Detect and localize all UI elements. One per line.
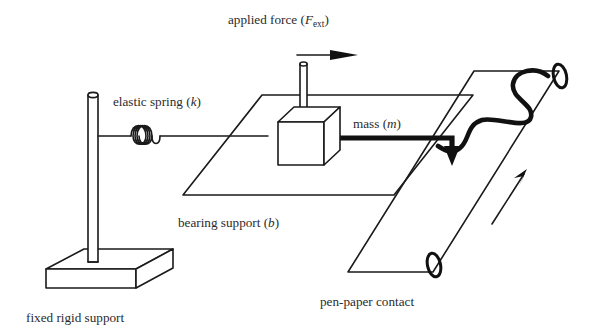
mechanical-system-diagram: applied force (Fext) elastic spring (k) … (0, 0, 595, 335)
elastic-spring-group (98, 126, 268, 145)
pen-tip-arrow (444, 146, 460, 166)
paper-feed-direction-arrow (492, 169, 527, 224)
bearing-support-label: bearing support (b) (178, 215, 279, 230)
mass-rod-top-cap (300, 62, 307, 66)
pen-paper-contact-label: pen-paper contact (320, 294, 414, 309)
paper-roller-top (551, 63, 569, 89)
coil-spring (131, 126, 152, 145)
mass-block-front-face (278, 122, 324, 165)
coil-spring-tail (152, 136, 160, 144)
mass-block-group (278, 62, 340, 165)
paper-strip-outline (348, 71, 559, 272)
vertical-post-top-cap (88, 92, 98, 97)
pen-rod-group (330, 138, 460, 166)
diagram-canvas: applied force (Fext) elastic spring (k) … (0, 0, 595, 335)
fixed-rigid-support-group (46, 92, 173, 288)
vertical-post-body (88, 95, 98, 262)
fixed-rigid-support-label: fixed rigid support (26, 310, 124, 325)
pen-rod (330, 138, 452, 148)
base-plate-front-face (46, 269, 136, 288)
applied-force-arrow (297, 50, 358, 60)
paper-roller-bottom (425, 252, 443, 278)
elastic-spring-label: elastic spring (k) (113, 94, 201, 109)
applied-force-label: applied force (Fext) (228, 12, 329, 29)
mass-label: mass (m) (353, 116, 401, 131)
